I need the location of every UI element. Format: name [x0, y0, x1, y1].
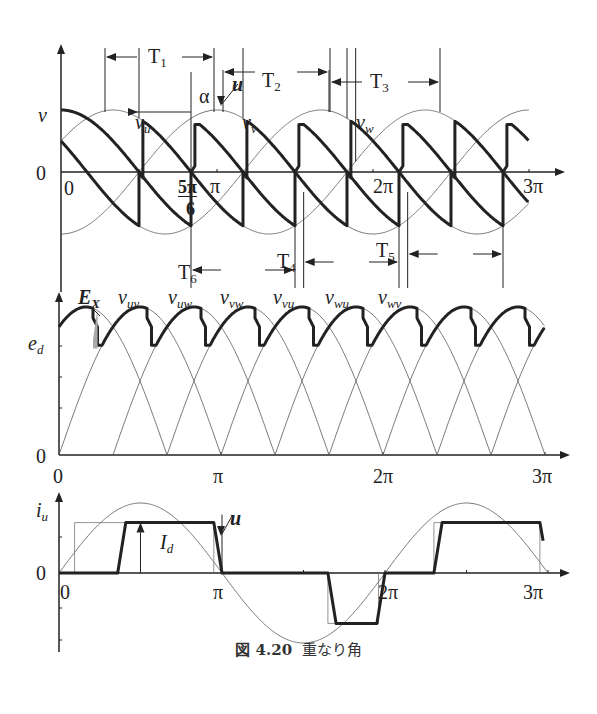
- p3-x0-label: 0: [60, 582, 70, 602]
- T2-arrow-right: [318, 68, 328, 76]
- p2-ylabel: ed: [28, 333, 43, 356]
- p1-2pi-label: 2π: [373, 176, 393, 196]
- ideal-current-pos2: [434, 523, 540, 573]
- p3-2pi-label: 2π: [378, 582, 398, 602]
- series-label-vuv: vuv: [118, 287, 139, 310]
- T3-arrow-right: [429, 78, 439, 86]
- p1-3pi-label: 3π: [523, 176, 543, 196]
- p2-zero-label: 0: [36, 446, 46, 466]
- series-label-vuw: vuw: [168, 287, 192, 310]
- series-label-vvw: vvw: [220, 287, 243, 310]
- p1-ylabel: v: [38, 105, 47, 125]
- alpha-label: α: [199, 86, 209, 106]
- T6-label: T6: [178, 262, 197, 285]
- figure-caption: 図 4.20 重なり角: [0, 638, 597, 659]
- ed-waveform: [59, 307, 544, 345]
- p2-y-axis-arrow: [55, 292, 63, 302]
- series-label-vu: vu: [135, 112, 150, 135]
- p2-x0-label: 0: [53, 466, 63, 486]
- overlap-u-label-top: u: [232, 74, 243, 94]
- p1-zero-label: 0: [36, 163, 46, 183]
- ideal-current-pos: [75, 523, 214, 573]
- T5-arrow-right: [492, 250, 502, 258]
- p2-3pi-label: 3π: [532, 466, 552, 486]
- T4-arrow-left: [305, 258, 315, 266]
- T3-arrow-left: [331, 78, 341, 86]
- p3-zero-label: 0: [36, 563, 46, 583]
- p2-2pi-label: 2π: [373, 466, 393, 486]
- series-label-vw: vw: [356, 112, 374, 135]
- overlap-u-label-bottom: u: [230, 508, 241, 528]
- T1-arrow-left: [106, 53, 116, 61]
- line-voltage-arc: [491, 327, 545, 455]
- T4-label: T4: [277, 251, 296, 274]
- T5-label: T5: [376, 240, 395, 263]
- p1-x-axis-arrow: [555, 168, 565, 176]
- p2-pi-label: π: [213, 466, 223, 486]
- p3-pi-label: π: [213, 582, 223, 602]
- T3-label: T3: [370, 71, 389, 94]
- T2-label: T2: [262, 70, 281, 93]
- T1-arrow-right: [203, 53, 213, 61]
- p1-5pi-label: 5π: [178, 178, 197, 197]
- Id-label: Id: [160, 532, 173, 555]
- p3-3pi-label: 3π: [523, 582, 543, 602]
- p2-x-axis-arrow: [560, 451, 570, 459]
- p1-6-label: 6: [186, 200, 195, 218]
- p3-ylabel: iu: [36, 500, 48, 523]
- waveform-figure: [0, 0, 597, 714]
- p1-pi-label: π: [210, 176, 220, 196]
- p3-x-axis-arrow: [560, 569, 570, 577]
- series-label-vv: vv: [242, 112, 257, 135]
- T1-label: T1: [148, 46, 167, 69]
- T5-arrow-left: [409, 250, 419, 258]
- p1-x0-label: 0: [64, 178, 74, 198]
- series-label-vvu: vvu: [273, 287, 294, 310]
- Ex-label: EX: [78, 287, 100, 310]
- series-label-vwv: vwv: [378, 287, 401, 310]
- p1-y-axis-arrow: [57, 44, 65, 54]
- p3-y-axis-arrow: [55, 492, 63, 502]
- series-label-vwu: vwu: [325, 287, 349, 310]
